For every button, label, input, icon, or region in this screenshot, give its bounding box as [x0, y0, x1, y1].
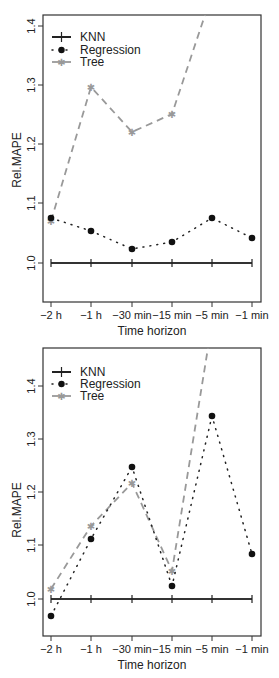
x-tick-label: −15 min — [152, 643, 191, 655]
svg-text:✱: ✱ — [128, 127, 136, 138]
svg-text:✱: ✱ — [168, 109, 176, 120]
svg-text:✱: ✱ — [47, 584, 55, 595]
x-tick-label: −5 min — [195, 309, 228, 321]
x-tick-label: −1 h — [80, 643, 102, 655]
y-tick-label: 1.4 — [25, 378, 37, 393]
svg-text:Tree: Tree — [80, 389, 105, 403]
y-axis-title: Rel.MAPE — [10, 132, 24, 187]
legend-item-tree: ✱ Tree — [52, 389, 105, 403]
y-tick-label: 1.1 — [25, 537, 37, 552]
y-tick-label: 1.0 — [25, 591, 37, 606]
x-tick-label: −30 min — [112, 309, 151, 321]
legend-item-tree: ✱ Tree — [52, 55, 105, 69]
x-axis-title: Time horizon — [118, 324, 187, 338]
svg-text:✱: ✱ — [87, 521, 95, 532]
y-tick-label: 1.3 — [25, 77, 37, 92]
x-tick-label: −2 h — [40, 309, 62, 321]
y-tick-label: 1.2 — [25, 484, 37, 499]
series-regression — [48, 413, 256, 620]
x-tick-label: −2 h — [40, 643, 62, 655]
y-tick-label: 1.1 — [25, 195, 37, 210]
y-tick-label: 1.0 — [25, 255, 37, 270]
x-tick-label: −1 h — [80, 309, 102, 321]
x-axis — [51, 302, 252, 307]
plot-area — [43, 15, 261, 302]
x-tick-label: −1 min — [235, 309, 268, 321]
plot-area — [43, 348, 261, 636]
svg-text:Tree: Tree — [80, 55, 105, 69]
chart-1: 1.0 1.1 1.2 1.3 1.4 Rel.MAPE −2 h −1 h −… — [0, 0, 279, 340]
legend: KNN Regression ✱ Tree — [52, 30, 141, 69]
svg-text:✱: ✱ — [57, 391, 65, 402]
series-knn — [51, 259, 252, 267]
y-tick-label: 1.4 — [25, 18, 37, 33]
series-knn — [51, 595, 252, 603]
x-axis — [51, 636, 252, 641]
y-tick-label: 1.2 — [25, 136, 37, 151]
y-axis-title: Rel.MAPE — [10, 482, 24, 537]
x-tick-label: −5 min — [195, 643, 228, 655]
x-axis-title: Time horizon — [118, 658, 187, 672]
y-axis — [38, 26, 43, 263]
svg-text:✱: ✱ — [87, 82, 95, 93]
x-tick-label: −15 min — [152, 309, 191, 321]
svg-text:KNN: KNN — [80, 30, 105, 44]
legend-item-knn: KNN — [52, 30, 105, 44]
series-tree: ✱✱ ✱✱ — [47, 0, 212, 227]
svg-text:✱: ✱ — [128, 478, 136, 489]
svg-text:✱: ✱ — [168, 566, 176, 577]
svg-text:✱: ✱ — [57, 57, 65, 68]
x-tick-label: −30 min — [112, 643, 151, 655]
y-tick-label: 1.3 — [25, 431, 37, 446]
x-tick-label: −1 min — [235, 643, 268, 655]
y-axis — [38, 386, 43, 599]
chart-2: 1.0 1.1 1.2 1.3 1.4 Rel.MAPE −2 h −1 h −… — [0, 340, 279, 678]
series-regression — [48, 215, 256, 253]
legend: KNN Regression ✱ Tree — [52, 365, 141, 403]
